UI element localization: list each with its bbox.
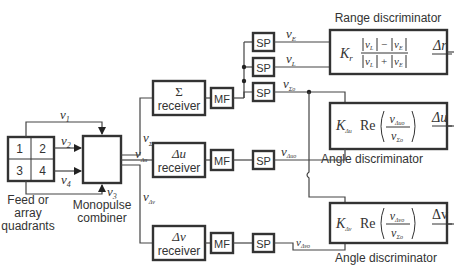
- svg-text:SP: SP: [256, 155, 271, 167]
- quadrant-3: 3: [16, 164, 23, 178]
- monopulse-block-diagram: 1 2 3 4 Feed or array quadrants Monopuls…: [0, 0, 454, 270]
- range-output-label: Δr: [432, 38, 447, 53]
- angle-discriminator-v-title: Angle discriminator: [335, 251, 437, 265]
- label-v-du-o: vΔuo: [281, 144, 296, 159]
- svg-text:SP: SP: [256, 62, 271, 74]
- svg-text:array: array: [14, 206, 41, 220]
- label-v1: v1: [60, 107, 70, 124]
- quadrant-2: 2: [39, 142, 46, 156]
- svg-text:Re: Re: [360, 118, 376, 133]
- label-v-du: vΔu: [135, 146, 147, 163]
- angle-discriminator-u-title: Angle discriminator: [321, 152, 423, 166]
- svg-text:Feed or: Feed or: [7, 193, 48, 207]
- feed-quadrants: 1 2 3 4: [8, 137, 54, 181]
- svg-text:SP: SP: [256, 37, 271, 49]
- svg-text:MF: MF: [214, 93, 230, 105]
- label-v4: v4: [61, 172, 71, 189]
- angle-discriminator-v-box: [330, 203, 447, 243]
- svg-text:receiver: receiver: [158, 99, 201, 113]
- label-v-sigma-o: vΣo: [283, 76, 295, 92]
- svg-text:Re: Re: [360, 216, 376, 231]
- svg-text:−: −: [381, 38, 387, 50]
- svg-text:Δu: Δu: [171, 146, 187, 161]
- angle-discriminator-u-box: [330, 103, 447, 149]
- quadrant-1: 1: [16, 142, 23, 156]
- svg-text:SP: SP: [256, 87, 271, 99]
- range-discriminator-title: Range discriminator: [335, 11, 442, 25]
- svg-text:combiner: combiner: [77, 211, 126, 225]
- label-v-dv-o: vΔvo: [296, 236, 310, 249]
- label-v-dv: vΔv: [143, 189, 155, 205]
- svg-text:MF: MF: [214, 155, 230, 167]
- label-v-e: vE: [286, 26, 297, 43]
- monopulse-combiner-box: [83, 136, 121, 183]
- svg-text:Monopulse: Monopulse: [73, 198, 132, 212]
- dv-output-label: Δv: [432, 207, 448, 222]
- feed-label: Feed or array quadrants: [1, 193, 54, 233]
- quadrant-4: 4: [39, 164, 46, 178]
- svg-text:quadrants: quadrants: [1, 219, 54, 233]
- du-output-label: Δu: [431, 110, 447, 125]
- svg-text:Σ: Σ: [175, 84, 183, 99]
- label-v-l: vL: [286, 51, 296, 68]
- svg-text:receiver: receiver: [158, 161, 201, 175]
- svg-text:SP: SP: [256, 238, 271, 250]
- label-v3: v3: [107, 184, 117, 201]
- svg-text:receiver: receiver: [158, 244, 201, 258]
- svg-text:+: +: [381, 55, 387, 67]
- label-v2: v2: [61, 133, 71, 150]
- svg-text:Δv: Δv: [171, 229, 186, 244]
- combiner-label: Monopulse combiner: [73, 198, 132, 225]
- svg-text:MF: MF: [214, 238, 230, 250]
